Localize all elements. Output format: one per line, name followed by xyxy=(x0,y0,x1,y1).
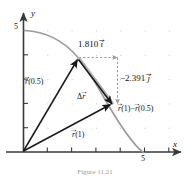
vector-label-r-half: →r(0.5) xyxy=(25,78,43,86)
vector-label-delta-r: Δ→r xyxy=(77,93,85,101)
vector-arrow-accent: → xyxy=(116,100,124,108)
difference-r-half-symbol: →r xyxy=(135,105,138,113)
vector-arrow-accent: → xyxy=(80,88,88,96)
figure-container: y x 5 5 →r(0.5) →r(1) Δ→r 1.810 →i −2.39… xyxy=(0,0,190,176)
i-component-value: 1.810 xyxy=(78,39,98,49)
i-component-label: 1.810 →i xyxy=(78,40,103,49)
delta-r-symbol: →r xyxy=(82,93,85,101)
vector-label-r-one: →r(1) xyxy=(72,131,84,139)
difference-r-one-symbol: →r xyxy=(118,105,121,113)
vector-arrow-accent: → xyxy=(23,73,31,81)
vector-arrow-accent: → xyxy=(133,100,141,108)
r-half-symbol: →r xyxy=(25,78,28,86)
j-hat-symbol: →j xyxy=(148,74,151,83)
difference-label: →r(1)−→r(0.5) xyxy=(118,105,153,113)
vector-arrow-accent: → xyxy=(70,126,78,134)
i-hat-symbol: →i xyxy=(101,40,104,49)
j-component-label: −2.391 →j xyxy=(120,74,150,83)
vector-arrow-accent: → xyxy=(97,35,106,44)
x-tick-label-5: 5 xyxy=(141,155,145,163)
r-one-symbol: →r xyxy=(72,131,75,139)
y-axis-label: y xyxy=(31,9,35,18)
figure-caption: Figure 11.21 xyxy=(0,168,190,176)
j-component-value: −2.391 xyxy=(120,73,145,83)
vector-arrow-accent: → xyxy=(144,69,153,78)
figure-graphic xyxy=(0,0,190,176)
x-axis-label: x xyxy=(173,140,177,149)
y-tick-label-5: 5 xyxy=(14,23,18,31)
